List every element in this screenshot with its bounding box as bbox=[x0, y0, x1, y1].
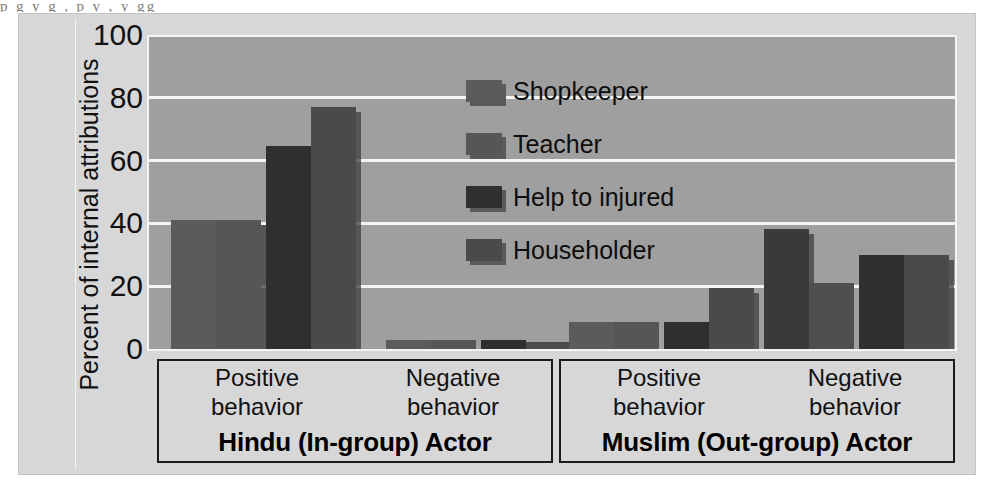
behavior-muslim-positive-line1: Positive bbox=[561, 363, 757, 392]
legend-label-householder: Householder bbox=[513, 237, 655, 263]
y-tick-20: 20 bbox=[77, 271, 143, 301]
bar-help-to-injured-muslim-negative[interactable] bbox=[859, 255, 904, 349]
legend-label-shopkeeper: Shopkeeper bbox=[513, 78, 648, 104]
legend-label-teacher: Teacher bbox=[513, 131, 602, 157]
bar-teacher-muslim-negative[interactable] bbox=[809, 283, 854, 349]
behavior-muslim-positive: Positive behavior bbox=[561, 363, 757, 425]
chart-screenshot: p g y g , p y , y gg Percent of internal… bbox=[0, 0, 989, 492]
bar-help-to-injured-muslim-positive[interactable] bbox=[664, 322, 709, 349]
bar-shopkeeper-hindu-positive[interactable] bbox=[171, 220, 216, 349]
figure-card: Percent of internal attributions 100 80 … bbox=[18, 13, 976, 475]
legend-item-help-to-injured[interactable]: Help to injured bbox=[466, 170, 766, 223]
actor-name-hindu: Hindu (In-group) Actor bbox=[159, 427, 551, 458]
bar-teacher-hindu-positive[interactable] bbox=[216, 220, 261, 349]
actor-box-muslim: Positive behavior Negative behavior Musl… bbox=[559, 359, 955, 463]
actor-box-hindu: Positive behavior Negative behavior Hind… bbox=[157, 359, 553, 463]
behavior-hindu-negative-line2: behavior bbox=[355, 392, 551, 421]
bar-shadow bbox=[356, 112, 361, 349]
bar-shopkeeper-hindu-negative[interactable] bbox=[386, 340, 431, 349]
swatch-fill bbox=[466, 80, 502, 102]
bar-teacher-muslim-positive[interactable] bbox=[614, 322, 659, 349]
bar-shopkeeper-muslim-negative[interactable] bbox=[764, 229, 809, 349]
behavior-labels-hindu: Positive behavior Negative behavior bbox=[159, 363, 551, 425]
swatch-fill bbox=[466, 239, 502, 261]
legend-swatch-help-to-injured-icon bbox=[466, 186, 502, 208]
swatch-fill bbox=[466, 133, 502, 155]
y-tick-40: 40 bbox=[77, 208, 143, 238]
bar-householder-hindu-negative[interactable] bbox=[526, 342, 571, 349]
bar-shopkeeper-muslim-positive[interactable] bbox=[569, 322, 614, 349]
category-axis: Positive behavior Negative behavior Hind… bbox=[147, 359, 957, 467]
bar-shadow bbox=[949, 260, 954, 349]
y-axis-tick-labels: 100 80 60 40 20 0 bbox=[77, 14, 143, 476]
bar-help-to-injured-hindu-positive[interactable] bbox=[266, 146, 311, 349]
bar-householder-muslim-positive[interactable] bbox=[709, 288, 754, 349]
y-tick-80: 80 bbox=[77, 83, 143, 113]
behavior-muslim-negative: Negative behavior bbox=[757, 363, 953, 425]
behavior-hindu-positive: Positive behavior bbox=[159, 363, 355, 425]
y-tick-0: 0 bbox=[77, 334, 143, 364]
legend-swatch-teacher-icon bbox=[466, 133, 502, 155]
legend-item-householder[interactable]: Householder bbox=[466, 223, 766, 276]
swatch-fill bbox=[466, 186, 502, 208]
bar-group-hindu-positive bbox=[171, 37, 367, 349]
page-text-bleed: p g y g , p y , y gg bbox=[0, 0, 989, 12]
legend-item-shopkeeper[interactable]: Shopkeeper bbox=[466, 64, 766, 117]
actor-name-muslim: Muslim (Out-group) Actor bbox=[561, 427, 953, 458]
behavior-hindu-positive-line1: Positive bbox=[159, 363, 355, 392]
bar-householder-hindu-positive[interactable] bbox=[311, 107, 356, 349]
legend-label-help-to-injured: Help to injured bbox=[513, 184, 674, 210]
legend-item-teacher[interactable]: Teacher bbox=[466, 117, 766, 170]
behavior-hindu-negative: Negative behavior bbox=[355, 363, 551, 425]
bar-group-muslim-negative bbox=[764, 37, 960, 349]
behavior-muslim-negative-line2: behavior bbox=[757, 392, 953, 421]
bar-householder-muslim-negative[interactable] bbox=[904, 255, 949, 349]
behavior-hindu-positive-line2: behavior bbox=[159, 392, 355, 421]
y-tick-100: 100 bbox=[77, 20, 143, 50]
bar-help-to-injured-hindu-negative[interactable] bbox=[481, 340, 526, 349]
behavior-hindu-negative-line1: Negative bbox=[355, 363, 551, 392]
legend-swatch-shopkeeper-icon bbox=[466, 80, 502, 102]
bar-shadow bbox=[754, 293, 759, 349]
behavior-muslim-negative-line1: Negative bbox=[757, 363, 953, 392]
legend-swatch-householder-icon bbox=[466, 239, 502, 261]
behavior-muslim-positive-line2: behavior bbox=[561, 392, 757, 421]
chart-legend: Shopkeeper Teacher Help to injured bbox=[466, 64, 766, 276]
behavior-labels-muslim: Positive behavior Negative behavior bbox=[561, 363, 953, 425]
y-tick-60: 60 bbox=[77, 146, 143, 176]
bar-teacher-hindu-negative[interactable] bbox=[431, 340, 476, 349]
